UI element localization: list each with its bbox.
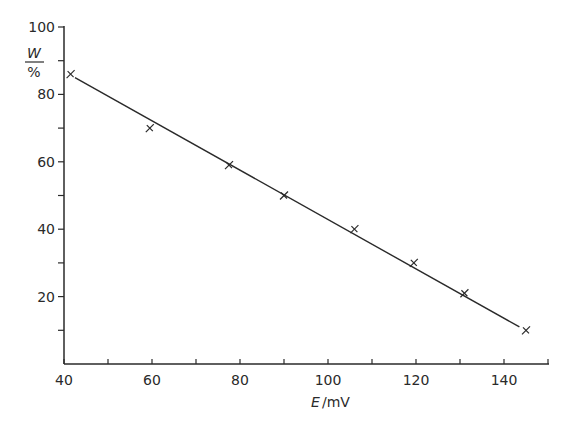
- cross-marker-icon: [146, 124, 154, 132]
- x-tick-label: 100: [315, 372, 342, 388]
- x-tick-label: 120: [403, 372, 430, 388]
- x-axis-title: E /mV: [311, 394, 350, 410]
- y-tick-label: 100: [28, 19, 55, 35]
- x-axis-unit: /mV: [322, 394, 350, 410]
- fit-line: [75, 78, 519, 327]
- x-tick-label: 40: [55, 372, 73, 388]
- y-axis-unit: %: [27, 64, 40, 80]
- y-tick-label: 60: [37, 154, 55, 170]
- axes: [64, 26, 549, 364]
- cross-marker-icon: [67, 70, 75, 78]
- cross-marker-icon: [522, 326, 530, 334]
- cross-marker-icon: [350, 225, 358, 233]
- y-tick-label: 40: [37, 221, 55, 237]
- chart: 40608010012014020406080100 W % E /mV: [0, 0, 572, 437]
- y-axis-symbol: W: [27, 45, 42, 61]
- y-tick-label: 20: [37, 289, 55, 305]
- x-tick-label: 60: [143, 372, 161, 388]
- ticks: 40608010012014020406080100: [28, 19, 548, 388]
- x-axis-symbol: E: [311, 394, 320, 410]
- y-tick-label: 80: [37, 86, 55, 102]
- cross-marker-icon: [410, 259, 418, 267]
- x-tick-label: 80: [231, 372, 249, 388]
- y-axis-title: W %: [25, 45, 44, 80]
- regression-line: [75, 78, 519, 327]
- x-tick-label: 140: [491, 372, 518, 388]
- cross-marker-icon: [280, 192, 288, 200]
